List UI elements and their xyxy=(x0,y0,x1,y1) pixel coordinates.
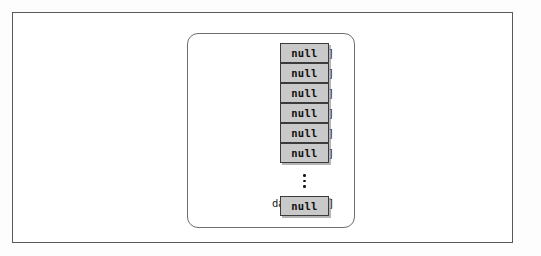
table-row: data[2] null xyxy=(188,83,334,103)
array-cell: null xyxy=(280,143,329,163)
figure-container: data[0] null data[1] null data[2] null d… xyxy=(0,0,541,256)
table-row: data[0] null xyxy=(188,43,334,63)
table-row-last: data[pkmax] null xyxy=(188,196,334,216)
array-panel: data[0] null data[1] null data[2] null d… xyxy=(187,33,355,228)
array-cell-value: null xyxy=(291,88,318,99)
array-rows: data[0] null data[1] null data[2] null d… xyxy=(188,34,354,227)
array-cell-value: null xyxy=(291,108,318,119)
array-cell: null xyxy=(280,43,329,63)
array-cell-value: null xyxy=(291,68,318,79)
array-cell: null xyxy=(280,103,329,123)
array-cell-value: null xyxy=(291,201,318,212)
array-cell-value: null xyxy=(291,48,318,59)
table-row: data[1] null xyxy=(188,63,334,83)
ellipsis-dot xyxy=(303,185,305,187)
array-cell-value: null xyxy=(291,148,318,159)
array-cell: null xyxy=(280,196,329,216)
array-cell: null xyxy=(280,63,329,83)
table-row: data[3] null xyxy=(188,103,334,123)
table-row: data[5] null xyxy=(188,143,334,163)
table-row: data[4] null xyxy=(188,123,334,143)
array-cell: null xyxy=(280,83,329,103)
ellipsis-dot xyxy=(303,174,305,176)
array-cell-value: null xyxy=(291,128,318,139)
array-cell: null xyxy=(280,123,329,143)
ellipsis-dot xyxy=(303,180,305,182)
vertical-ellipsis-icon xyxy=(280,170,329,192)
